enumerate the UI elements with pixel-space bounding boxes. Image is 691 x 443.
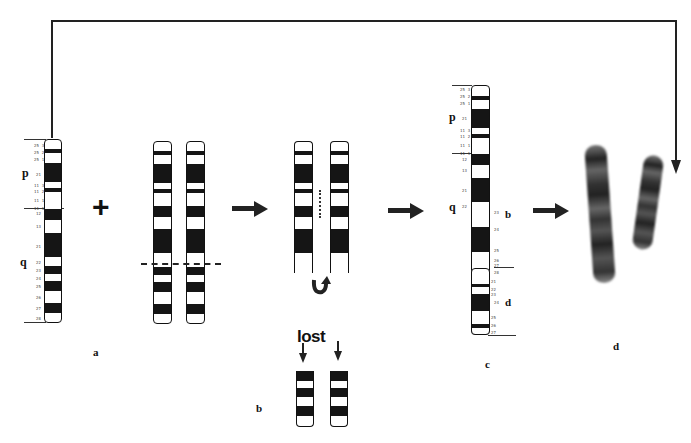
chromosome-pair-left xyxy=(153,141,172,324)
p-arm-label-c: p xyxy=(449,110,456,125)
arrow-right-icon xyxy=(254,201,268,217)
region-label-b: b xyxy=(505,208,511,220)
lost-arrow-left-icon xyxy=(299,353,307,363)
q-arm-label-c: q xyxy=(449,200,456,215)
panel-label-a: a xyxy=(93,346,99,358)
sister-chromatid-exchange-dots xyxy=(319,190,323,218)
arrow-right-icon xyxy=(410,203,424,219)
down-arrow-icon xyxy=(671,160,681,174)
metaphase-chromosome-rearranged xyxy=(631,154,664,251)
panel-label-b: b xyxy=(256,402,262,414)
lost-fragment-left xyxy=(296,371,314,427)
panel-label-c: c xyxy=(485,358,490,370)
chromatid-right xyxy=(330,141,349,273)
metaphase-chromosome-normal xyxy=(584,144,616,283)
chromatid-left xyxy=(294,141,313,273)
top-connector-right xyxy=(675,20,677,165)
lost-arrow-right-icon xyxy=(334,351,342,361)
rotate-arrow-icon xyxy=(310,274,334,298)
panel-label-d: d xyxy=(613,340,619,352)
chromosome-c-lower xyxy=(471,268,490,335)
p-arm-label-a: p xyxy=(22,166,29,181)
break-line xyxy=(141,263,221,265)
arrow-3-shaft xyxy=(533,208,557,213)
q-bottom-line-c xyxy=(488,335,516,336)
plus-sign: + xyxy=(92,190,110,224)
q-arm-label-a: q xyxy=(20,255,27,270)
arrow-right-icon xyxy=(555,203,569,219)
q-bottom-line xyxy=(24,322,46,323)
p-top-line xyxy=(24,139,46,140)
arrow-2-shaft xyxy=(388,208,412,213)
region-label-d: d xyxy=(505,296,511,308)
arrow-1-shaft xyxy=(232,206,256,211)
chromosome-a xyxy=(44,139,62,323)
top-connector-left xyxy=(51,20,53,138)
p-top-line-c xyxy=(452,85,472,86)
lost-fragment-right xyxy=(330,371,348,427)
chromosome-pair-right xyxy=(186,141,205,324)
top-connector-line xyxy=(51,20,677,22)
